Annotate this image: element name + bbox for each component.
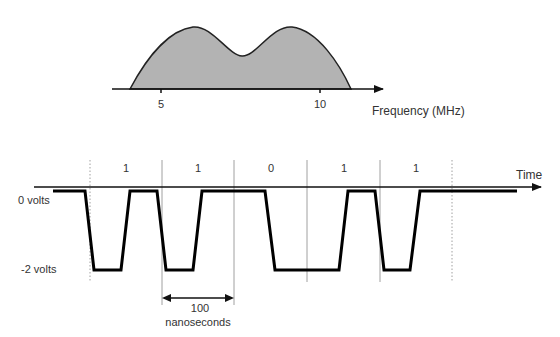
signal-waveform (53, 191, 517, 270)
spectrum-chart (112, 27, 383, 93)
tick-label-5: 5 (158, 98, 164, 110)
time-axis-label: Time (516, 168, 542, 182)
duration-unit: nanoseconds (165, 316, 230, 328)
bit-label-5: 1 (413, 162, 419, 174)
frequency-axis-label: Frequency (MHz) (372, 104, 465, 118)
tick-label-10: 10 (314, 98, 326, 110)
bit-label-1: 1 (123, 162, 129, 174)
diagram-canvas (0, 0, 560, 337)
duration-indicator (162, 294, 234, 302)
duration-value: 100 (191, 302, 209, 314)
spectrum-area (130, 27, 351, 89)
bit-label-4: 1 (341, 162, 347, 174)
bit-label-3: 0 (268, 162, 274, 174)
level-label-high: 0 volts (18, 194, 50, 206)
bit-label-2: 1 (195, 162, 201, 174)
level-label-low: -2 volts (21, 263, 56, 275)
